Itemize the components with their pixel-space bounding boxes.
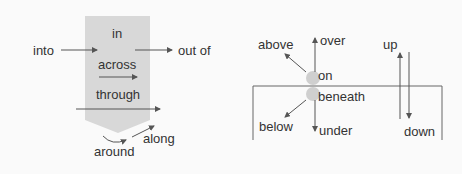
label-over: over xyxy=(320,34,345,47)
label-beneath: beneath xyxy=(318,90,365,103)
label-in: in xyxy=(112,27,122,40)
label-below: below xyxy=(259,120,293,133)
label-on: on xyxy=(318,69,332,82)
label-through: through xyxy=(96,88,140,101)
label-under: under xyxy=(319,124,352,137)
preposition-diagram-canvas xyxy=(0,0,462,174)
around-curve xyxy=(103,136,126,142)
label-across: across xyxy=(98,58,136,71)
label-along: along xyxy=(143,132,175,145)
label-into: into xyxy=(33,44,54,57)
label-above: above xyxy=(258,38,293,51)
label-out-of: out of xyxy=(178,44,211,57)
above-arrow xyxy=(285,54,306,72)
label-up: up xyxy=(383,38,397,51)
label-around: around xyxy=(94,145,134,158)
below-arrow xyxy=(285,100,306,117)
label-down: down xyxy=(404,125,435,138)
